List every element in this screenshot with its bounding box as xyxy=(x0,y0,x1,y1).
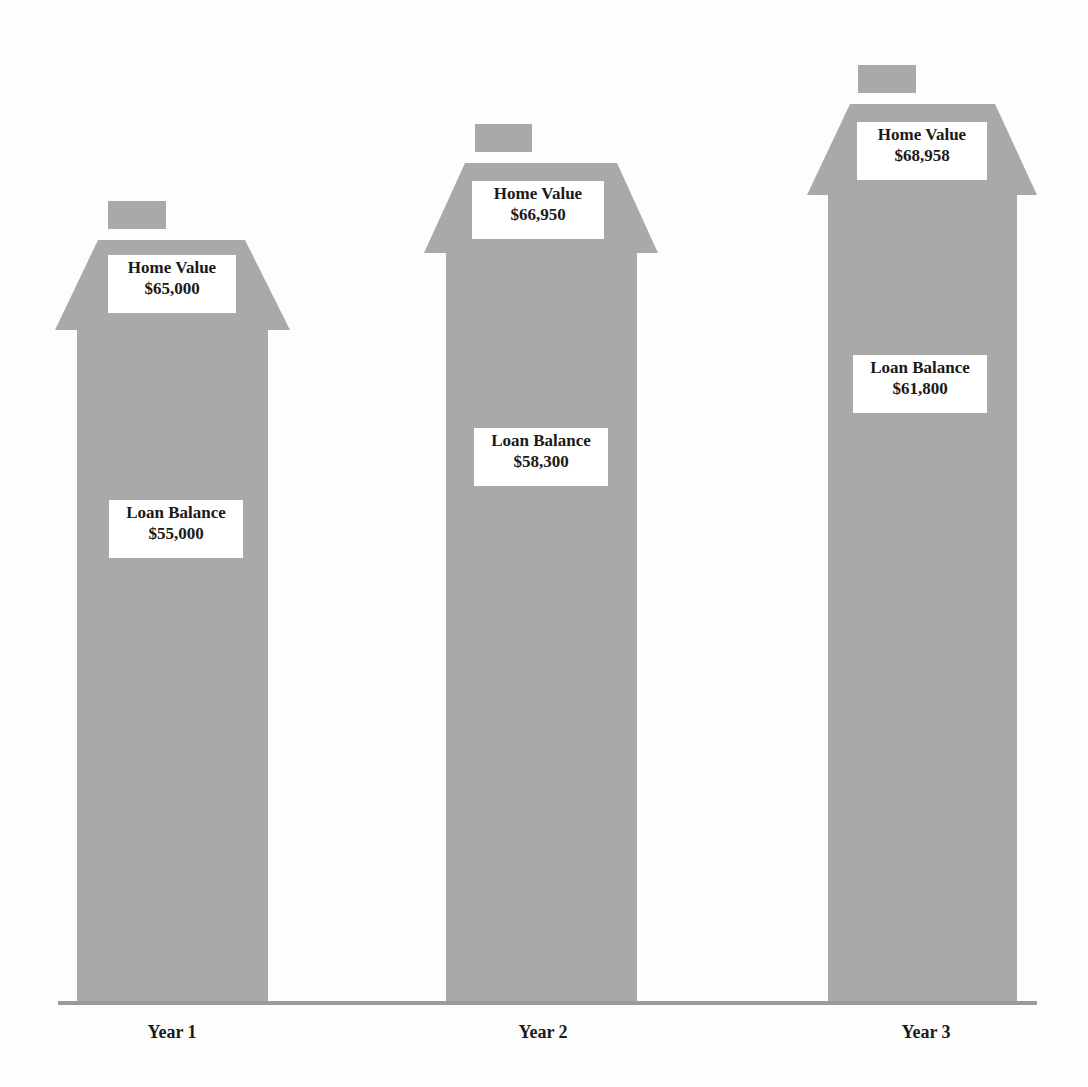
x-axis-label-year-1: Year 1 xyxy=(112,1022,232,1043)
house-bar-year-3 xyxy=(807,65,1037,1003)
loan-balance-amount: $55,000 xyxy=(115,523,237,544)
x-axis-label-year-2: Year 2 xyxy=(483,1022,603,1043)
baseline xyxy=(58,1001,1037,1005)
house-bar-year-1 xyxy=(55,201,290,1003)
home-value-title: Home Value xyxy=(478,183,598,204)
loan-balance-amount: $58,300 xyxy=(480,451,602,472)
house-bar-year-2 xyxy=(424,124,658,1003)
home-value-label-year-2: Home Value $66,950 xyxy=(472,181,604,239)
loan-balance-title: Loan Balance xyxy=(115,502,237,523)
home-value-amount: $66,950 xyxy=(478,204,598,225)
home-value-amount: $65,000 xyxy=(114,278,230,299)
loan-balance-label-year-1: Loan Balance $55,000 xyxy=(109,500,243,558)
loan-balance-title: Loan Balance xyxy=(859,357,981,378)
home-value-label-year-3: Home Value $68,958 xyxy=(857,122,987,180)
home-value-title: Home Value xyxy=(863,124,981,145)
home-value-label-year-1: Home Value $65,000 xyxy=(108,255,236,313)
loan-balance-label-year-3: Loan Balance $61,800 xyxy=(853,355,987,413)
loan-balance-amount: $61,800 xyxy=(859,378,981,399)
loan-balance-title: Loan Balance xyxy=(480,430,602,451)
x-axis-label-year-3: Year 3 xyxy=(866,1022,986,1043)
loan-balance-label-year-2: Loan Balance $58,300 xyxy=(474,428,608,486)
home-value-amount: $68,958 xyxy=(863,145,981,166)
home-value-title: Home Value xyxy=(114,257,230,278)
